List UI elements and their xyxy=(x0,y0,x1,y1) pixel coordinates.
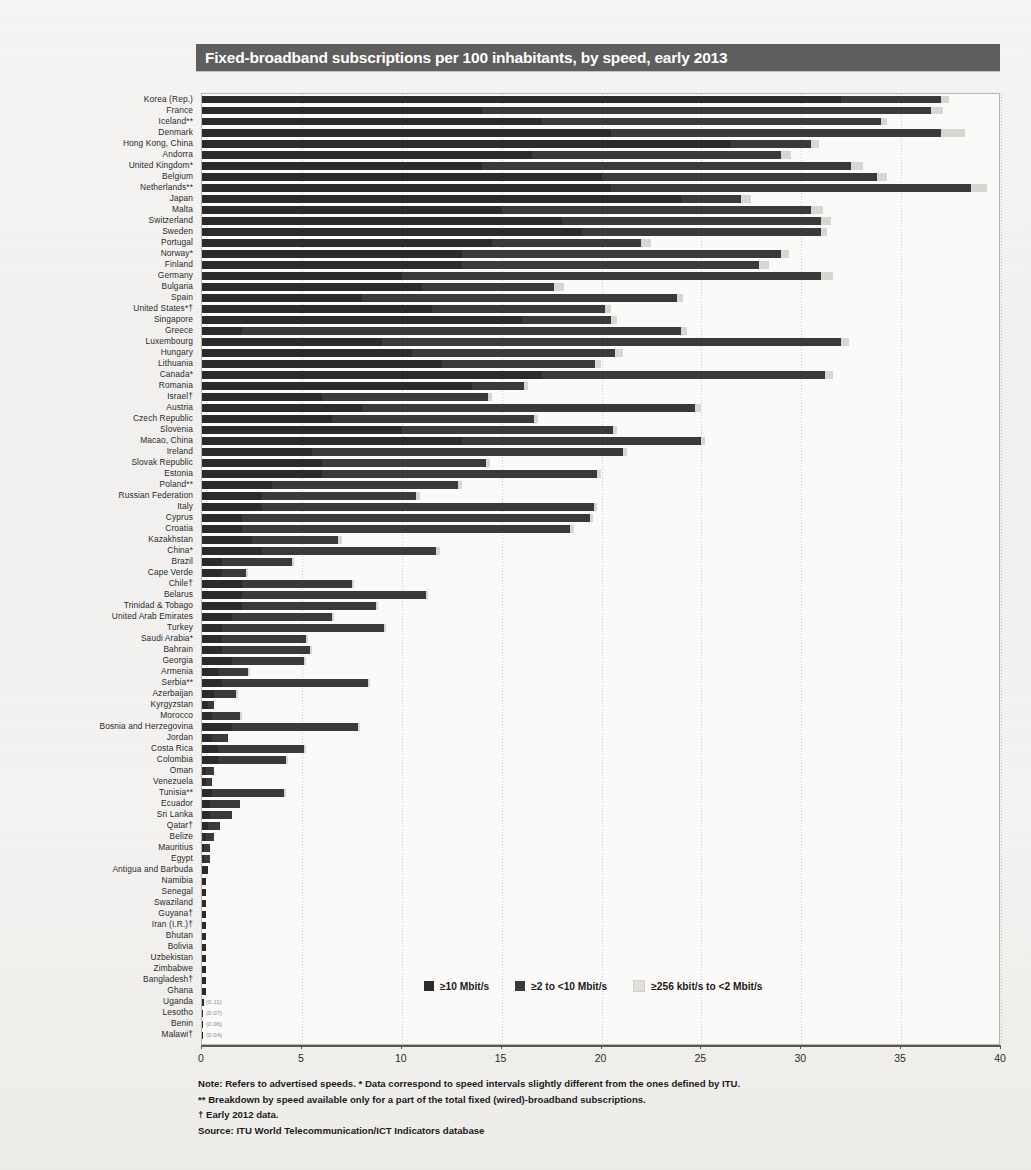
category-label: Morocco xyxy=(160,710,193,721)
bar-segment-s2 xyxy=(212,734,228,741)
bar-segment-s256 xyxy=(332,613,334,620)
stacked-bar[interactable] xyxy=(202,503,597,510)
stacked-bar[interactable] xyxy=(202,371,833,378)
stacked-bar[interactable] xyxy=(202,470,601,477)
stacked-bar[interactable] xyxy=(202,261,769,268)
stacked-bar[interactable] xyxy=(202,558,294,565)
stacked-bar[interactable] xyxy=(202,613,334,620)
stacked-bar[interactable] xyxy=(202,272,833,279)
stacked-bar[interactable] xyxy=(202,217,831,224)
bar-segment-s10 xyxy=(202,305,432,312)
stacked-bar[interactable] xyxy=(202,393,492,400)
stacked-bar[interactable] xyxy=(202,988,206,995)
stacked-bar[interactable] xyxy=(202,944,206,951)
stacked-bar[interactable] xyxy=(202,635,308,642)
stacked-bar[interactable] xyxy=(202,756,288,763)
stacked-bar[interactable] xyxy=(202,878,206,885)
stacked-bar[interactable] xyxy=(202,679,370,686)
stacked-bar[interactable] xyxy=(202,811,232,818)
stacked-bar[interactable] xyxy=(202,822,220,829)
category-label: Armenia xyxy=(161,666,193,677)
stacked-bar[interactable] xyxy=(202,569,248,576)
stacked-bar[interactable] xyxy=(202,701,214,708)
stacked-bar[interactable] xyxy=(202,977,206,984)
stacked-bar[interactable] xyxy=(202,767,214,774)
stacked-bar[interactable] xyxy=(202,228,827,235)
stacked-bar[interactable] xyxy=(202,437,705,444)
stacked-bar[interactable] xyxy=(202,734,228,741)
stacked-bar[interactable] xyxy=(202,900,206,907)
stacked-bar[interactable] xyxy=(202,107,943,114)
stacked-bar[interactable] xyxy=(202,349,623,356)
stacked-bar[interactable] xyxy=(202,591,428,598)
stacked-bar[interactable] xyxy=(202,933,206,940)
stacked-bar[interactable] xyxy=(202,96,949,103)
bar-segment-s10 xyxy=(202,448,312,455)
stacked-bar[interactable] xyxy=(202,239,651,246)
stacked-bar[interactable] xyxy=(202,140,819,147)
legend-item[interactable]: ≥10 Mbit/s xyxy=(424,981,489,992)
stacked-bar[interactable] xyxy=(202,481,462,488)
stacked-bar[interactable] xyxy=(202,118,887,125)
stacked-bar[interactable] xyxy=(202,789,286,796)
stacked-bar[interactable] xyxy=(202,745,306,752)
stacked-bar[interactable] xyxy=(202,889,206,896)
stacked-bar[interactable] xyxy=(202,448,627,455)
stacked-bar[interactable] xyxy=(202,327,687,334)
stacked-bar[interactable] xyxy=(202,833,214,840)
stacked-bar[interactable] xyxy=(202,338,849,345)
stacked-bar[interactable] xyxy=(202,955,206,962)
stacked-bar[interactable] xyxy=(202,690,238,697)
stacked-bar[interactable] xyxy=(202,778,212,785)
stacked-bar[interactable] xyxy=(202,1032,203,1039)
stacked-bar[interactable] xyxy=(202,866,208,873)
stacked-bar[interactable] xyxy=(202,602,378,609)
bar-row xyxy=(202,810,999,821)
stacked-bar[interactable] xyxy=(202,800,240,807)
stacked-bar[interactable] xyxy=(202,1010,203,1017)
stacked-bar[interactable] xyxy=(202,547,440,554)
stacked-bar[interactable] xyxy=(202,712,242,719)
bar-segment-s2 xyxy=(681,195,741,202)
stacked-bar[interactable] xyxy=(202,294,683,301)
stacked-bar[interactable] xyxy=(202,206,823,213)
stacked-bar[interactable] xyxy=(202,646,312,653)
stacked-bar[interactable] xyxy=(202,668,250,675)
stacked-bar[interactable] xyxy=(202,305,611,312)
stacked-bar[interactable] xyxy=(202,404,701,411)
stacked-bar[interactable] xyxy=(202,250,789,257)
stacked-bar[interactable] xyxy=(202,382,528,389)
stacked-bar[interactable] xyxy=(202,922,206,929)
stacked-bar[interactable] xyxy=(202,514,593,521)
stacked-bar[interactable] xyxy=(202,911,206,918)
stacked-bar[interactable] xyxy=(202,426,617,433)
stacked-bar[interactable] xyxy=(202,844,210,851)
bar-segment-s256 xyxy=(695,404,701,411)
stacked-bar[interactable] xyxy=(202,1021,203,1028)
stacked-bar[interactable] xyxy=(202,415,538,422)
stacked-bar[interactable] xyxy=(202,129,965,136)
stacked-bar[interactable] xyxy=(202,723,360,730)
stacked-bar[interactable] xyxy=(202,184,987,191)
stacked-bar[interactable] xyxy=(202,162,863,169)
stacked-bar[interactable] xyxy=(202,999,204,1006)
stacked-bar[interactable] xyxy=(202,459,490,466)
stacked-bar[interactable] xyxy=(202,966,206,973)
stacked-bar[interactable] xyxy=(202,580,354,587)
stacked-bar[interactable] xyxy=(202,151,791,158)
bar-segment-s10 xyxy=(202,1010,203,1017)
stacked-bar[interactable] xyxy=(202,173,887,180)
stacked-bar[interactable] xyxy=(202,536,342,543)
stacked-bar[interactable] xyxy=(202,525,574,532)
stacked-bar[interactable] xyxy=(202,624,386,631)
stacked-bar[interactable] xyxy=(202,316,617,323)
stacked-bar[interactable] xyxy=(202,657,306,664)
stacked-bar[interactable] xyxy=(202,492,420,499)
stacked-bar[interactable] xyxy=(202,283,564,290)
stacked-bar[interactable] xyxy=(202,195,751,202)
stacked-bar[interactable] xyxy=(202,855,210,862)
stacked-bar[interactable] xyxy=(202,360,601,367)
bar-segment-s10 xyxy=(202,316,522,323)
legend-item[interactable]: ≥2 to <10 Mbit/s xyxy=(515,981,607,992)
legend-item[interactable]: ≥256 kbit/s to <2 Mbit/s xyxy=(633,980,762,992)
